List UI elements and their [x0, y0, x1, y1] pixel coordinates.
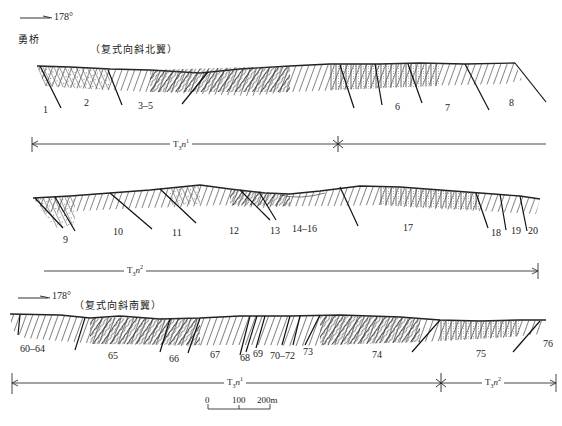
bed-label: 69: [253, 348, 263, 359]
cross-section-drawing: [0, 0, 562, 426]
bed-label: 9: [63, 234, 68, 245]
scale-tick-100: 100: [232, 395, 246, 405]
scale-tick-0: 0: [205, 395, 210, 405]
section-1-subtitle: （复式向斜北翼）: [90, 41, 178, 56]
bed-label: 14–16: [292, 223, 317, 234]
bed-label: 20: [528, 225, 538, 236]
direction-label-1: 178°: [54, 11, 73, 22]
unit-label-t3n2: T3n2: [124, 264, 146, 277]
bed-label: 11: [172, 227, 182, 238]
bed-label: 10: [113, 226, 123, 237]
bed-label: 2: [84, 97, 89, 108]
section-3-subtitle: （复式向斜南翼）: [74, 297, 162, 312]
bed-label: 18: [491, 227, 501, 238]
unit-label-t3n1: T3n1: [170, 138, 192, 151]
bed-label: 68: [240, 352, 250, 363]
bed-label: 65: [108, 350, 118, 361]
scale-tick-200m: 200m: [257, 395, 278, 405]
bed-label: 12: [229, 225, 239, 236]
bed-label: 8: [509, 97, 514, 108]
bed-label: 17: [403, 222, 413, 233]
bed-label: 19: [511, 225, 521, 236]
bed-label: 13: [270, 225, 280, 236]
section-1-profile: [20, 16, 546, 152]
bed-label: 60–64: [20, 343, 45, 354]
unit-label-t3n1-south: T3n1: [224, 376, 246, 389]
bed-label: 7: [445, 102, 450, 113]
bed-label: 6: [395, 101, 400, 112]
bed-label: 67: [210, 349, 220, 360]
location-label: 勇桥: [18, 31, 40, 46]
bed-label: 73: [303, 346, 313, 357]
unit-label-t3n2-south: T3n2: [482, 376, 504, 389]
bed-label: 70–72: [270, 350, 295, 361]
section-2-profile: [33, 185, 540, 279]
bed-label: 3–5: [138, 100, 153, 111]
direction-label-3: 178°: [52, 290, 71, 301]
bed-label: 66: [169, 353, 179, 364]
bed-label: 1: [43, 104, 48, 115]
bed-label: 75: [476, 348, 486, 359]
bed-label: 74: [372, 349, 382, 360]
bed-label: 76: [543, 338, 553, 349]
